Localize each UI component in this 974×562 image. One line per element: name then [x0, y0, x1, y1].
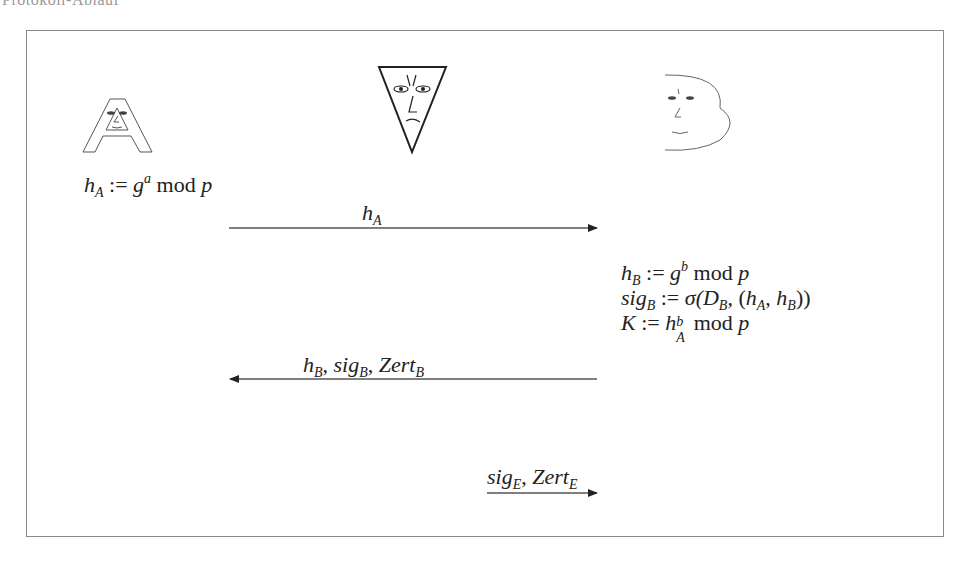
punct: , [765, 285, 776, 310]
message-label-2: hB, sigB, ZertB [303, 352, 424, 378]
var: D [703, 285, 719, 310]
var: h [776, 285, 787, 310]
sub: A [676, 325, 685, 351]
var: h [84, 172, 95, 197]
bob-icon [665, 75, 730, 150]
alice-computation: hA := ga mod p [84, 172, 212, 198]
var: h [303, 352, 314, 377]
var: h [746, 285, 757, 310]
assign-op: := [636, 310, 666, 335]
message-label-3: sigE, ZertE [487, 464, 578, 490]
comma: , [368, 352, 379, 377]
sub: E [569, 477, 578, 492]
mod-op: mod [151, 172, 201, 197]
supsub: bA [676, 329, 688, 330]
var: sig [487, 464, 513, 489]
bob-computation-sig: sigB := σ(DB, (hA, hB)) [621, 285, 811, 311]
mod-op: mod [688, 310, 738, 335]
sub: E [513, 477, 522, 492]
assign-op: := [655, 285, 685, 310]
sigma: σ( [685, 285, 703, 310]
punct: )) [796, 285, 811, 310]
sub: A [95, 185, 104, 200]
bob-computation-key: K := hbA mod p [621, 310, 749, 336]
sub: B [416, 365, 425, 380]
assign-op: := [641, 260, 671, 285]
base: h [665, 310, 676, 335]
var: sig [621, 285, 647, 310]
message-label-1: hA [362, 200, 382, 226]
assign-op: := [104, 172, 134, 197]
sub: B [359, 365, 368, 380]
modulus: p [738, 260, 749, 285]
punct: , ( [727, 285, 745, 310]
sub: A [373, 213, 382, 228]
modulus: p [201, 172, 212, 197]
base: g [133, 172, 144, 197]
alice-icon [83, 99, 152, 152]
var: h [621, 260, 632, 285]
bob-computation-hb: hB := gb mod p [621, 260, 749, 286]
var: K [621, 310, 636, 335]
mod-op: mod [688, 260, 738, 285]
var: Zert [532, 464, 569, 489]
var: Zert [379, 352, 416, 377]
eve-icon [379, 67, 446, 152]
base: g [670, 260, 681, 285]
comma: , [521, 464, 532, 489]
var: h [362, 200, 373, 225]
sub: B [314, 365, 323, 380]
comma: , [323, 352, 334, 377]
var: sig [334, 352, 360, 377]
sub: B [787, 298, 796, 313]
modulus: p [738, 310, 749, 335]
